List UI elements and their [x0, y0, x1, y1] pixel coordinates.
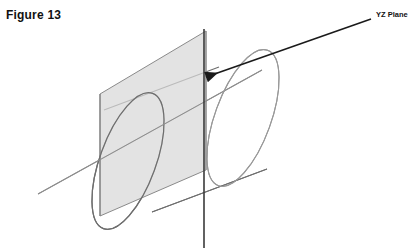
yz-plane-leader-arrow — [206, 19, 371, 77]
figure-canvas: Figure 13 YZ Plane — [0, 0, 419, 251]
cylinder-plane-diagram — [0, 0, 419, 251]
page-title: Figure 13 — [6, 8, 61, 22]
yz-plane-label: YZ Plane — [376, 10, 408, 19]
yz-plane — [100, 31, 206, 216]
yz-plane-surface — [100, 31, 206, 216]
